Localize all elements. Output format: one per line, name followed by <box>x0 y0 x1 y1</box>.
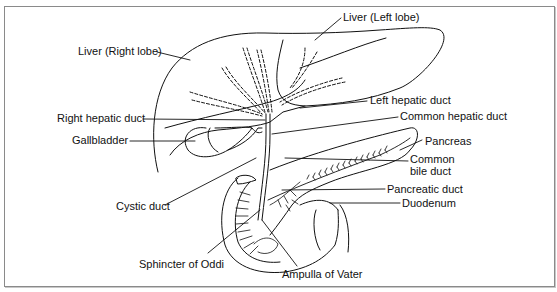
pancreatic-duct-branches <box>270 146 387 211</box>
label-right-hepatic-duct: Right hepatic duct <box>57 112 145 125</box>
label-pancreas: Pancreas <box>425 135 471 148</box>
label-sphincter-of-oddi: Sphincter of Oddi <box>139 258 224 271</box>
bile-ducts <box>252 114 270 220</box>
gallbladder-shape <box>185 127 262 157</box>
label-cystic-duct: Cystic duct <box>116 200 170 213</box>
pancreas-shape <box>268 128 418 235</box>
label-ampulla-of-vater: Ampulla of Vater <box>282 268 363 281</box>
label-common-hepatic-duct: Common hepatic duct <box>400 110 507 123</box>
label-pancreatic-duct: Pancreatic duct <box>387 183 463 196</box>
label-common-bile-duct-line2: bile duct <box>410 165 451 178</box>
leader-lines <box>130 18 422 266</box>
label-left-hepatic-duct: Left hepatic duct <box>370 94 451 107</box>
label-gallbladder: Gallbladder <box>72 134 128 147</box>
label-liver-right-lobe: Liver (Right lobe) <box>78 45 162 58</box>
label-liver-left-lobe: Liver (Left lobe) <box>343 11 419 24</box>
label-duodenum: Duodenum <box>402 197 456 210</box>
